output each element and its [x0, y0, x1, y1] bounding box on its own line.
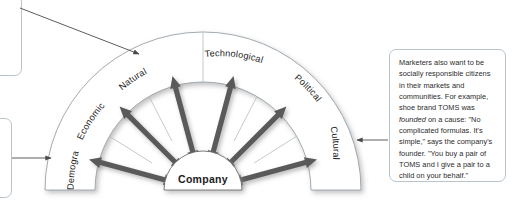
callout-right: Marketers also want to be socially respo…	[389, 49, 506, 182]
callout-right-text-part1: Marketers also want to be socially respo…	[399, 58, 490, 112]
connector-top-left-to-natural	[20, 8, 139, 54]
force-arrow-1	[88, 154, 178, 188]
arc-label-demographic: Demographic	[0, 0, 81, 190]
callout-right-italic-word: founded	[399, 115, 426, 124]
force-arrow-4	[205, 75, 239, 165]
callout-right-text: Marketers also want to be socially respo…	[399, 57, 498, 182]
callout-right-text-part2: on a cause: "No complicated formulas. It…	[399, 115, 492, 181]
figure-canvas: Demographic Economic Natural Technologic…	[0, 0, 513, 206]
force-arrow-3	[167, 75, 201, 165]
force-arrow-6	[229, 154, 319, 188]
company-label: Company	[178, 173, 228, 185]
